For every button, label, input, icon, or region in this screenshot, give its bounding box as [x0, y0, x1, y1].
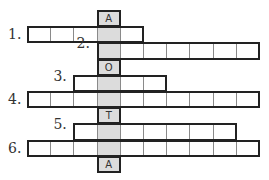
key-column-cell[interactable] — [97, 26, 121, 43]
crossword-cell[interactable] — [73, 91, 97, 108]
crossword-cell[interactable] — [27, 91, 51, 108]
key-letter: T — [98, 108, 120, 123]
crossword-cell[interactable] — [27, 26, 51, 43]
key-column-cell[interactable]: A — [97, 156, 121, 173]
crossword-cell[interactable] — [166, 91, 190, 108]
clue-number-label: 2. — [77, 36, 90, 50]
crossword-cell[interactable] — [213, 42, 237, 59]
crossword-cell[interactable] — [189, 140, 213, 157]
crossword-cell[interactable] — [236, 91, 260, 108]
crossword-cell[interactable] — [120, 75, 144, 92]
key-column-cell[interactable] — [97, 91, 121, 108]
key-column-cell[interactable]: A — [97, 10, 121, 27]
key-column-cell[interactable] — [97, 123, 121, 140]
crossword-cell[interactable] — [213, 91, 237, 108]
crossword-cell[interactable] — [120, 91, 144, 108]
key-column-cell[interactable] — [97, 42, 121, 59]
crossword-cell[interactable] — [73, 123, 97, 140]
crossword-cell[interactable] — [50, 140, 74, 157]
crossword-cell[interactable] — [120, 140, 144, 157]
key-letter: A — [98, 157, 120, 172]
crossword-cell[interactable] — [213, 123, 237, 140]
crossword-cell[interactable] — [189, 91, 213, 108]
crossword-cell[interactable] — [73, 140, 97, 157]
crossword-cell[interactable] — [120, 42, 144, 59]
crossword-cell[interactable] — [120, 26, 144, 43]
crossword-cell[interactable] — [50, 91, 74, 108]
crossword-cell[interactable] — [50, 26, 74, 43]
key-letter: O — [98, 60, 120, 75]
key-column-cell[interactable] — [97, 140, 121, 157]
crossword-cell[interactable] — [143, 91, 167, 108]
clue-number-label: 1. — [8, 27, 21, 41]
crossword-cell[interactable] — [189, 42, 213, 59]
crossword-cell[interactable] — [143, 42, 167, 59]
crossword-cell[interactable] — [166, 123, 190, 140]
key-column-cell[interactable] — [97, 75, 121, 92]
crossword-cell[interactable] — [143, 140, 167, 157]
crossword-cell[interactable] — [27, 140, 51, 157]
clue-number-label: 6. — [8, 141, 21, 155]
key-column-cell[interactable]: O — [97, 59, 121, 76]
crossword-cell[interactable] — [189, 123, 213, 140]
crossword-cell[interactable] — [166, 42, 190, 59]
crossword-cell[interactable] — [166, 140, 190, 157]
key-letter: A — [98, 11, 120, 26]
crossword-cell[interactable] — [236, 42, 260, 59]
crossword-cell[interactable] — [236, 140, 260, 157]
crossword-cell[interactable] — [73, 75, 97, 92]
crossword-grid: A1.2.O3.4.T5.6.A — [0, 0, 269, 180]
clue-number-label: 5. — [53, 117, 66, 131]
crossword-cell[interactable] — [120, 123, 144, 140]
crossword-cell[interactable] — [213, 140, 237, 157]
crossword-cell[interactable] — [143, 75, 167, 92]
key-column-cell[interactable]: T — [97, 107, 121, 124]
crossword-cell[interactable] — [143, 123, 167, 140]
clue-number-label: 4. — [8, 92, 21, 106]
clue-number-label: 3. — [53, 69, 66, 83]
